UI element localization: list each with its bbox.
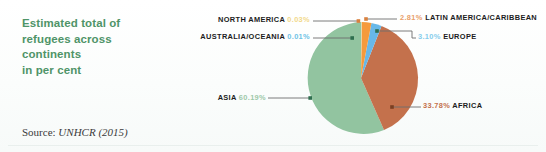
callout-latin-america: 2.81% LATIN AMERICA/CARIBBEAN <box>400 13 537 23</box>
leader-marker-latin <box>364 17 368 21</box>
leader-marker-australia <box>350 36 354 40</box>
callout-asia-value: 60.19% <box>239 93 266 102</box>
callout-australia-oceania-name: AUSTRALIA/OCEANIA <box>200 32 285 41</box>
callout-africa: 33.78% AFRICA <box>423 101 482 111</box>
callout-asia: ASIA 60.19% <box>150 93 266 103</box>
leader-marker-asia <box>308 96 312 100</box>
callout-north-america-name: NORTH AMERICA <box>218 15 285 24</box>
refugees-by-continent-infographic: Estimated total of refugees across conti… <box>0 0 546 152</box>
callout-north-america-value: 0.03% <box>287 15 310 24</box>
callout-asia-name: ASIA <box>218 93 237 102</box>
callout-europe-name: EUROPE <box>443 32 476 41</box>
callout-europe: 3.10% EUROPE <box>418 32 476 42</box>
leader-marker-europe <box>375 29 379 33</box>
callout-africa-value: 33.78% <box>423 101 450 110</box>
leader-marker-north-america <box>357 19 361 23</box>
leader-marker-africa <box>390 105 394 109</box>
callout-africa-name: AFRICA <box>452 101 482 110</box>
callout-europe-value: 3.10% <box>418 32 441 41</box>
callout-north-america: NORTH AMERICA 0.03% <box>186 15 310 25</box>
callout-australia-oceania: AUSTRALIA/OCEANIA 0.01% <box>170 32 310 42</box>
callout-latin-america-name: LATIN AMERICA/CARIBBEAN <box>425 13 537 22</box>
callout-australia-oceania-value: 0.01% <box>287 32 310 41</box>
callout-latin-america-value: 2.81% <box>400 13 423 22</box>
